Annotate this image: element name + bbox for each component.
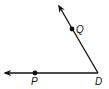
label-p: P bbox=[31, 76, 38, 87]
label-q: Q bbox=[76, 24, 84, 35]
ray-dq bbox=[59, 6, 98, 73]
label-d: D bbox=[95, 76, 102, 87]
point-q bbox=[70, 27, 75, 32]
angle-diagram: P Q D bbox=[0, 0, 109, 89]
point-p bbox=[33, 71, 38, 76]
